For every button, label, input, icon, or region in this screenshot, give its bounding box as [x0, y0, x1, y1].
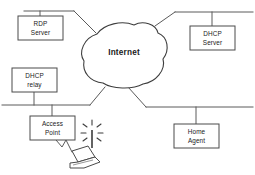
dhcp-relay-node: DHCP relay	[12, 68, 57, 92]
link-access-point-to-laptop	[56, 140, 72, 152]
link-cloud-to-right-bus	[128, 87, 146, 107]
link-rdp-to-cloud	[74, 11, 96, 33]
link-cloud-to-left-bus	[90, 87, 105, 105]
dhcp-server-node: DHCP Server	[190, 26, 235, 50]
rdp-server-node: RDP Server	[18, 16, 63, 40]
home-agent-label-line1: Home	[188, 128, 206, 135]
access-point-label-line1: Access	[42, 120, 63, 127]
internet-cloud: Internet	[82, 23, 167, 88]
network-diagram: Internet RDP Server DHCP Server DHCP rel…	[0, 0, 255, 175]
home-agent-node: Home Agent	[174, 124, 219, 148]
cloud-label: Internet	[108, 48, 140, 57]
dhcp-server-label-line2: Server	[203, 39, 223, 46]
dhcp-relay-label-line1: DHCP	[25, 72, 44, 79]
dhcp-server-label-line1: DHCP	[203, 30, 222, 37]
home-agent-label-line2: Agent	[188, 137, 205, 145]
access-point-label-line2: Point	[45, 129, 60, 136]
rdp-server-label-line1: RDP	[34, 20, 48, 27]
diagram-canvas: Internet RDP Server DHCP Server DHCP rel…	[0, 0, 255, 175]
link-cloud-to-dhcp-server	[155, 12, 175, 26]
access-point-node: Access Point	[30, 116, 75, 140]
rdp-server-label-line2: Server	[31, 29, 51, 36]
dhcp-relay-label-line2: relay	[27, 81, 42, 89]
